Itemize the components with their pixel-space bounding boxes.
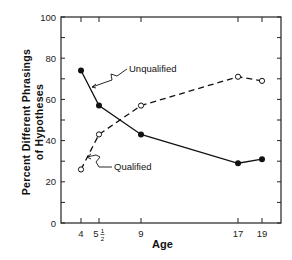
leader-qualified xyxy=(87,155,112,167)
annotation-qualified: Qualified xyxy=(114,161,152,172)
x-tick-label-fraction-den: 2 xyxy=(101,236,105,242)
line-chart: Percent Different Phrasings of Hypothese… xyxy=(0,0,292,260)
x-tick-label: 19 xyxy=(257,228,268,239)
data-point-unqualified xyxy=(138,131,144,137)
data-point-qualified xyxy=(235,74,240,79)
y-tick-label: 80 xyxy=(45,53,56,64)
y-tick-label: 20 xyxy=(45,176,56,187)
data-point-qualified xyxy=(78,167,83,172)
y-tick-label: 40 xyxy=(45,135,56,146)
y-tick-label: 0 xyxy=(51,218,56,229)
series-line-unqualified xyxy=(81,71,262,164)
leader-unqualified xyxy=(92,69,127,87)
x-tick-label: 5 xyxy=(93,228,98,239)
x-axis-label: Age xyxy=(152,238,173,250)
x-tick-label-fraction-num: 1 xyxy=(101,228,105,234)
data-point-unqualified xyxy=(235,160,241,166)
series-line-qualified xyxy=(81,77,262,170)
data-point-unqualified xyxy=(259,156,265,162)
x-tick-label: 9 xyxy=(138,228,143,239)
data-point-qualified xyxy=(259,78,264,83)
data-point-unqualified xyxy=(96,103,102,109)
data-point-unqualified xyxy=(78,68,84,74)
plot-area: 020406080100451291719UnqualifiedQualifie… xyxy=(0,0,292,260)
x-tick-label: 4 xyxy=(78,228,83,239)
annotation-unqualified: Unqualified xyxy=(129,63,177,74)
x-tick-label: 17 xyxy=(233,228,244,239)
y-tick-label: 60 xyxy=(45,94,56,105)
data-point-qualified xyxy=(138,103,143,108)
plot-frame xyxy=(61,17,281,223)
y-tick-label: 100 xyxy=(40,12,56,23)
data-point-qualified xyxy=(96,132,101,137)
